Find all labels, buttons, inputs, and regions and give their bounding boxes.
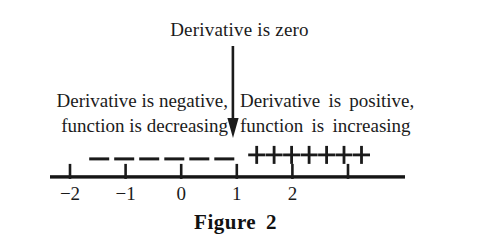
minus-sign-icon — [139, 157, 159, 160]
down-arrow-icon — [226, 46, 240, 138]
down-arrow-glyph — [226, 46, 240, 138]
negative-sign-region — [89, 157, 234, 160]
minus-sign-icon — [189, 157, 209, 160]
axis-layer — [50, 175, 405, 178]
derivative-zero-label: Derivative is zero — [0, 18, 479, 42]
plus-sign-icon — [290, 146, 293, 164]
plus-sign-icon — [343, 146, 346, 164]
axis-tick-label: 1 — [232, 183, 242, 204]
axis-tick-label: −1 — [115, 183, 135, 204]
axis-tick-label: 0 — [176, 183, 186, 204]
minus-sign-icon — [164, 157, 184, 160]
minus-sign-icon — [89, 157, 109, 160]
annotation-negative-line-1: Derivative is negative, — [14, 88, 228, 113]
annotation-positive: Derivative is positive, function is incr… — [240, 88, 472, 138]
axis-tick — [291, 164, 294, 179]
annotation-negative-line-2: function is decreasing — [14, 113, 228, 138]
axis-tick-label: −2 — [60, 183, 80, 204]
figure-2-derivative-sign-chart: Derivative is zero Derivative is negativ… — [0, 0, 479, 248]
axis-tick — [347, 164, 350, 179]
plus-sign-icon — [255, 146, 258, 164]
axis-tick — [236, 164, 239, 179]
positive-sign-region — [248, 146, 370, 164]
axis-tick-label: 2 — [288, 183, 298, 204]
axis-tick — [124, 164, 127, 179]
tick-label-layer: −2−1012 — [60, 183, 297, 204]
plus-sign-icon — [360, 146, 363, 164]
number-line: −2−1012 — [0, 140, 479, 210]
number-line-svg: −2−1012 — [0, 140, 479, 210]
figure-caption: Figure 2 — [0, 210, 471, 235]
plus-sign-icon — [273, 146, 276, 164]
minus-sign-icon — [214, 157, 234, 160]
annotation-negative: Derivative is negative, function is decr… — [14, 88, 228, 138]
axis-tick — [180, 164, 183, 179]
minus-sign-icon — [114, 157, 134, 160]
plus-sign-icon — [308, 146, 311, 164]
plus-sign-icon — [325, 146, 328, 164]
annotation-positive-line-1: Derivative is positive, — [240, 88, 472, 113]
axis-line — [50, 175, 405, 178]
annotation-positive-line-2: function is increasing — [240, 113, 472, 138]
axis-tick — [69, 164, 72, 179]
sign-symbol-layer — [89, 146, 370, 164]
